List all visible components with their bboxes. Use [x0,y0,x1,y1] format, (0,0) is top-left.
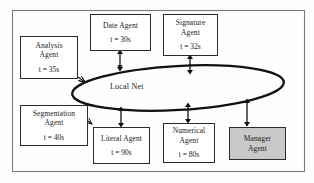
agent-time: t = 35s [39,65,59,74]
agent-time: t = 32s [180,42,200,51]
agent-node-signature[interactable]: Signature Agent t = 32s [163,14,218,56]
local-net-ellipse [71,60,285,116]
agent-node-numerical[interactable]: Numerical Agent t = 80s [163,123,215,163]
diagram-canvas: Local Net Analysis Agent t = 35s Date Ag… [0,0,314,183]
agent-name: Signature Agent [176,18,206,37]
agent-name: Literal Agent [101,134,142,143]
agent-time: t = 80s [179,150,199,159]
agent-time: t = 40s [44,133,64,142]
agent-time: t = 30s [110,35,130,44]
agent-node-manager[interactable]: Manager Agent [229,127,286,160]
agent-node-literal[interactable]: Literal Agent t = 90s [93,127,150,164]
agent-node-date[interactable]: Date Agent t = 30s [90,14,151,51]
agent-node-segmentation[interactable]: Segmentation Agent t = 40s [20,105,88,146]
agent-name: Numerical Agent [173,126,206,145]
agent-name: Date Agent [103,21,138,30]
agent-time: t = 90s [111,148,131,157]
agent-name: Segmentation Agent [33,109,75,128]
local-net-label: Local Net [110,82,144,91]
agent-node-analysis[interactable]: Analysis Agent t = 35s [20,36,78,79]
agent-name: Manager Agent [244,134,271,153]
agent-name: Analysis Agent [35,41,62,60]
